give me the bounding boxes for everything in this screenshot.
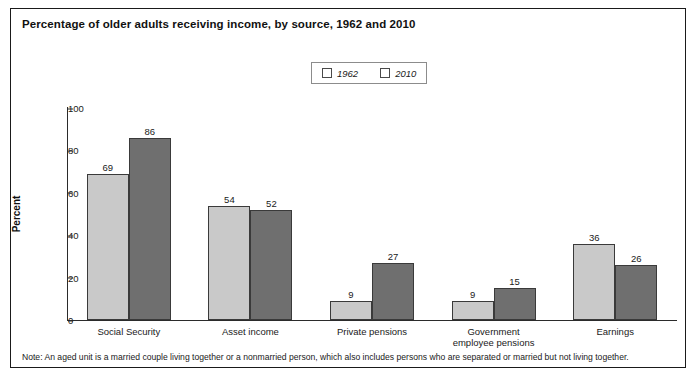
chart-legend: 1962 2010	[311, 62, 427, 84]
y-axis-tick-mark	[68, 193, 73, 194]
legend-swatch-2010	[380, 68, 390, 78]
legend-item-1962: 1962	[322, 68, 358, 79]
bar-value-label: 54	[224, 194, 235, 205]
bar-2010[interactable]: 15	[494, 288, 536, 320]
x-axis-category-label: Asset income	[222, 326, 279, 337]
bar-2010[interactable]: 86	[129, 138, 171, 320]
bar-1962[interactable]: 9	[330, 301, 372, 320]
bar-1962[interactable]: 36	[573, 244, 615, 320]
bar-2010[interactable]: 52	[250, 210, 292, 320]
bar-value-label: 26	[631, 253, 642, 264]
bar-group: 5452	[208, 108, 292, 320]
bar-1962[interactable]: 54	[208, 206, 250, 320]
y-axis-tick-mark	[68, 150, 73, 151]
bar-value-label: 9	[348, 289, 353, 300]
bar-value-label: 9	[470, 289, 475, 300]
y-axis-tick-mark	[68, 235, 73, 236]
bar-value-label: 27	[388, 251, 399, 262]
chart-title: Percentage of older adults receiving inc…	[22, 18, 416, 30]
y-axis-tick-mark	[68, 320, 73, 321]
bar-group: 927	[330, 108, 414, 320]
y-axis-tick-mark	[68, 278, 73, 279]
y-axis-title: Percent	[11, 196, 22, 233]
bar-value-label: 69	[103, 162, 114, 173]
x-axis-category-label: Government employee pensions	[453, 326, 535, 348]
plot-area: 020406080100698654529279153626	[68, 108, 676, 320]
x-axis-category-label: Private pensions	[337, 326, 407, 337]
bar-1962[interactable]: 9	[452, 301, 494, 320]
bar-value-label: 86	[145, 126, 156, 137]
legend-item-2010: 2010	[380, 68, 416, 79]
bar-group: 915	[452, 108, 536, 320]
bar-value-label: 36	[589, 232, 600, 243]
bar-value-label: 15	[509, 276, 520, 287]
bar-2010[interactable]: 27	[372, 263, 414, 320]
y-axis-tick-mark	[68, 108, 73, 109]
chart-note: Note: An aged unit is a married couple l…	[22, 352, 680, 363]
x-axis-line	[67, 320, 677, 321]
bar-2010[interactable]: 26	[615, 265, 657, 320]
bar-group: 3626	[573, 108, 657, 320]
bar-group: 6986	[87, 108, 171, 320]
legend-label-2010: 2010	[395, 68, 416, 79]
legend-label-1962: 1962	[337, 68, 358, 79]
chart-figure: Percentage of older adults receiving inc…	[0, 0, 696, 376]
x-axis-category-label: Earnings	[596, 326, 634, 337]
bar-value-label: 52	[266, 198, 277, 209]
legend-swatch-1962	[322, 68, 332, 78]
bar-1962[interactable]: 69	[87, 174, 129, 320]
x-axis-category-label: Social Security	[97, 326, 160, 337]
